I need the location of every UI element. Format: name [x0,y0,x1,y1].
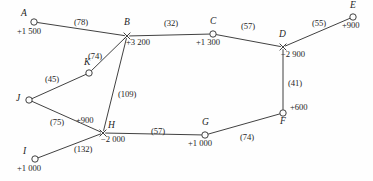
node-label-j: J [16,94,20,104]
extra-value-h-plus: +900 [76,116,94,125]
node-value-g: +1 000 [188,139,212,148]
edge-weight-b-c: (32) [164,19,178,28]
node-value-f: +600 [290,103,308,112]
node-value-a: +1 500 [17,27,41,36]
node-value-i: +1 000 [17,164,41,173]
node-label-a: A [21,9,27,19]
node-label-c: C [210,17,216,27]
edge-c-d [217,35,281,47]
node-label-d: D [279,30,286,40]
edge-weight-h-i: (132) [74,145,92,154]
edge-weight-g-h: (57) [151,127,165,136]
node-label-g: G [202,118,209,128]
node-marker-k [86,70,92,76]
node-marker-j [26,97,32,103]
edge-weight-h-b: (109) [118,90,136,99]
node-value-c: +1 300 [196,38,220,47]
node-marker-a [31,19,37,25]
edge-h-b [104,39,127,131]
edge-weight-d-e: (55) [312,19,326,28]
node-marker-i [32,156,38,162]
network-diagram: (78)(32)(57)(55)(41)(74)(57)(109)(75)(13… [0,0,373,181]
node-label-k: K [84,58,90,68]
edge-b-c [130,34,210,36]
node-label-e: E [350,1,356,11]
node-label-h: H [108,121,115,131]
edges-layer [32,18,349,157]
edge-weight-d-f: (41) [288,79,302,88]
node-value-h: −2 000 [101,135,125,144]
node-value-d: −2 900 [281,50,305,59]
node-label-i: I [23,147,26,157]
node-label-f: F [280,117,286,127]
node-value-b: +3 200 [126,38,150,47]
edge-weight-c-d: (57) [241,22,255,31]
edge-weight-h-j: (75) [50,118,64,127]
node-label-b: B [124,18,130,28]
edge-weight-a-b: (78) [74,18,88,27]
edge-weight-j-k: (45) [45,75,59,84]
node-value-e: +900 [342,21,360,30]
edge-weight-f-g: (74) [240,133,254,142]
